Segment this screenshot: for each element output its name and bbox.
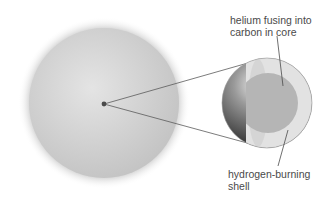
core-label: helium fusing into carbon in core [230, 14, 312, 38]
helium-core-cut [238, 73, 298, 133]
core-dot [102, 102, 107, 107]
shell-label: hydrogen-burning shell [228, 168, 310, 192]
